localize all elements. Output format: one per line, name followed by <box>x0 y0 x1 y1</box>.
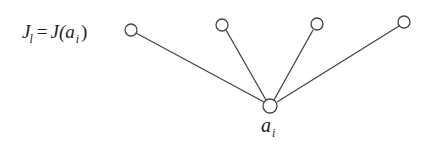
edge-leaf-3 <box>274 30 313 100</box>
edge-leaf-4 <box>277 26 399 102</box>
label-sub-i: i <box>76 32 79 46</box>
edges <box>136 26 399 102</box>
hub-label-sub-i: i <box>272 126 275 140</box>
edge-leaf-1 <box>136 33 264 102</box>
leaf-node-4 <box>398 16 410 28</box>
edge-leaf-2 <box>226 30 266 100</box>
label-eq: = <box>37 21 48 42</box>
leaf-node-3 <box>311 18 323 30</box>
label-close: ) <box>81 21 87 43</box>
leaf-node-2 <box>216 19 228 31</box>
leaf-node-1 <box>125 24 137 36</box>
hub-label-a: a <box>261 114 271 136</box>
label-sub-l: l <box>29 32 33 46</box>
leaf-label: Jl=J(ai) <box>22 21 87 46</box>
star-diagram: Jl=J(ai) ai <box>0 0 435 156</box>
hub-label: ai <box>261 114 275 140</box>
hub-node <box>263 99 277 113</box>
label-a: a <box>65 21 75 42</box>
nodes <box>125 16 410 113</box>
